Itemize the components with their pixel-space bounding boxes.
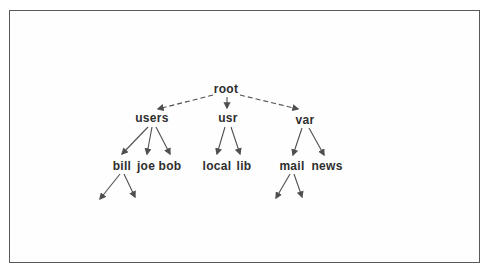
node-var: var bbox=[296, 114, 315, 126]
node-bob: bob bbox=[159, 160, 182, 172]
node-usr: usr bbox=[218, 112, 238, 124]
node-users: users bbox=[135, 112, 169, 124]
node-root: root bbox=[214, 83, 239, 95]
node-lib: lib bbox=[237, 160, 252, 172]
node-local: local bbox=[203, 160, 232, 172]
node-news: news bbox=[311, 160, 342, 172]
node-bill: bill bbox=[113, 160, 132, 172]
node-joe: joe bbox=[137, 160, 155, 172]
diagram-frame bbox=[9, 10, 480, 263]
diagram-canvas: root users usr var bill joe bob local li… bbox=[0, 0, 489, 274]
node-mail: mail bbox=[279, 160, 304, 172]
